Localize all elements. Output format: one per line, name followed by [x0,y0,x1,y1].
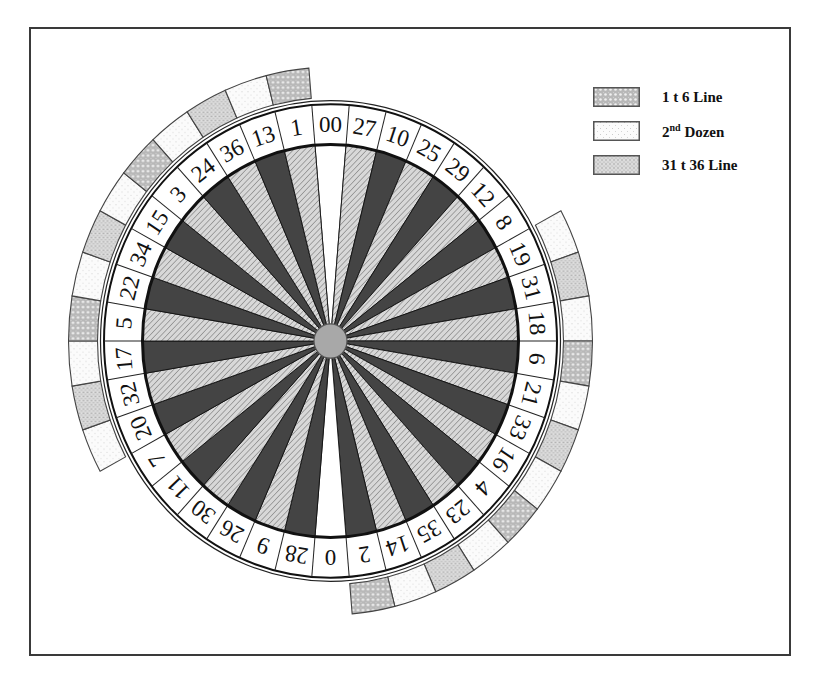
legend-label-text: Dozen [681,124,725,140]
band-segment-line1 [266,68,311,105]
pocket-number: 5 [111,316,137,330]
legend-label-superscript: nd [670,122,681,133]
legend-label-number: 2 [662,124,670,140]
pocket-number: 6 [524,352,550,366]
legend-item-31-to-36-line: 31 t 36 Line [593,154,737,176]
pocket-number: 17 [110,346,137,372]
pocket-number: 28 [283,540,310,570]
band-segment-dozen2 [69,341,101,386]
legend-item-2nd-dozen: 2nd Dozen [593,120,737,142]
stipple-swatch-icon [593,155,640,175]
crosshatch-swatch-icon [593,87,640,107]
dotted-swatch-icon [593,121,640,141]
pocket-number: 00 [319,111,342,138]
legend-item-1-to-6-line: 1 t 6 Line [593,86,737,108]
band-segment-dozen2 [560,296,592,341]
pocket-number: 27 [351,112,378,142]
legend-label: 31 t 36 Line [662,157,737,174]
pocket-number: 0 [325,545,337,572]
legend-label: 2nd Dozen [662,122,724,141]
band-segment-line1 [69,296,101,341]
band-segment-line1 [350,577,395,614]
legend: 1 t 6 Line 2nd Dozen 31 t 36 Line [593,86,737,188]
pocket-number: 18 [524,310,551,336]
band-segment-line1 [560,341,592,386]
hub [314,324,347,358]
legend-label: 1 t 6 Line [662,89,722,106]
